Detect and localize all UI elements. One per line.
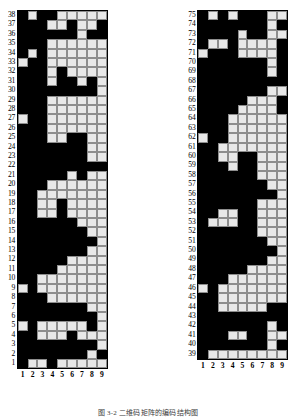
matrix-cell [238, 303, 248, 312]
left-row-label: 7 [8, 302, 17, 311]
right-matrix-row [198, 321, 287, 330]
matrix-cell [277, 11, 287, 20]
matrix-cell [87, 359, 97, 368]
matrix-cell [257, 284, 267, 293]
right-row-label: 67 [188, 85, 197, 94]
matrix-cell [198, 143, 208, 152]
matrix-cell [18, 96, 28, 105]
right-column-labels: 123456789 [198, 360, 287, 371]
matrix-cell [57, 359, 67, 368]
matrix-cell [257, 246, 267, 255]
matrix-cell [277, 199, 287, 208]
matrix-cell [67, 293, 77, 302]
matrix-cell [47, 105, 57, 114]
matrix-cell [277, 312, 287, 321]
matrix-cell [218, 303, 228, 312]
matrix-cell [228, 11, 238, 20]
matrix-cell [28, 199, 38, 208]
matrix-cell [208, 133, 218, 142]
matrix-cell [18, 350, 28, 359]
matrix-cell [28, 143, 38, 152]
matrix-cell [277, 49, 287, 58]
left-matrix-row [18, 77, 107, 86]
right-row-label: 72 [188, 38, 197, 47]
matrix-cell [77, 246, 87, 255]
matrix-cell [28, 162, 38, 171]
matrix-cell [97, 209, 107, 218]
right-row-label: 64 [188, 113, 197, 122]
left-matrix-row [18, 114, 107, 123]
matrix-cell [97, 152, 107, 161]
matrix-cell [277, 171, 287, 180]
matrix-cell [247, 58, 257, 67]
matrix-cell [37, 303, 47, 312]
right-matrix-row [198, 293, 287, 302]
matrix-cell [67, 274, 77, 283]
left-row-label: 18 [8, 198, 17, 207]
matrix-cell [87, 171, 97, 180]
matrix-cell [218, 256, 228, 265]
matrix-cell [247, 86, 257, 95]
matrix-cell [208, 303, 218, 312]
matrix-cell [18, 227, 28, 236]
matrix-cell [238, 39, 248, 48]
left-matrix-row [18, 303, 107, 312]
matrix-cell [57, 49, 67, 58]
right-panel-body: 7574737271706968676665646362616059585756… [188, 10, 288, 360]
right-row-label: 59 [188, 161, 197, 170]
left-row-label: 38 [8, 10, 17, 19]
matrix-cell [257, 218, 267, 227]
left-row-label: 34 [8, 48, 17, 57]
matrix-cell [208, 209, 218, 218]
left-matrix-row [18, 209, 107, 218]
matrix-cell [247, 152, 257, 161]
matrix-cell [257, 152, 267, 161]
matrix-cell [77, 256, 87, 265]
matrix-cell [198, 199, 208, 208]
matrix-cell [97, 284, 107, 293]
left-matrix-row [18, 39, 107, 48]
matrix-cell [257, 86, 267, 95]
matrix-cell [208, 256, 218, 265]
matrix-cell [208, 321, 218, 330]
matrix-cell [198, 227, 208, 236]
matrix-cell [87, 152, 97, 161]
matrix-cell [218, 114, 228, 123]
matrix-cell [277, 20, 287, 29]
matrix-cell [198, 86, 208, 95]
matrix-cell [37, 274, 47, 283]
matrix-cell [277, 209, 287, 218]
matrix-cell [67, 350, 77, 359]
matrix-cell [238, 256, 248, 265]
matrix-cell [67, 246, 77, 255]
left-matrix-row [18, 30, 107, 39]
matrix-cell [97, 312, 107, 321]
matrix-cell [28, 237, 38, 246]
matrix-cell [87, 180, 97, 189]
matrix-cell [267, 133, 277, 142]
matrix-cell [47, 67, 57, 76]
left-column-label: 7 [77, 370, 87, 380]
matrix-cell [87, 312, 97, 321]
matrix-cell [257, 265, 267, 274]
matrix-cell [218, 124, 228, 133]
matrix-cell [87, 133, 97, 142]
matrix-cell [87, 237, 97, 246]
right-row-label: 44 [188, 302, 197, 311]
matrix-cell [77, 96, 87, 105]
matrix-cell [28, 105, 38, 114]
matrix-cell [97, 274, 107, 283]
matrix-cell [67, 49, 77, 58]
matrix-cell [87, 124, 97, 133]
matrix-cell [238, 30, 248, 39]
matrix-cell [238, 265, 248, 274]
matrix-cell [247, 209, 257, 218]
matrix-cell [28, 303, 38, 312]
matrix-cell [47, 114, 57, 123]
matrix-cell [257, 303, 267, 312]
matrix-cell [47, 312, 57, 321]
figure-container: 3837363534333231302928272625242322212019… [0, 0, 296, 417]
matrix-cell [277, 114, 287, 123]
left-matrix-row [18, 86, 107, 95]
matrix-cell [87, 105, 97, 114]
